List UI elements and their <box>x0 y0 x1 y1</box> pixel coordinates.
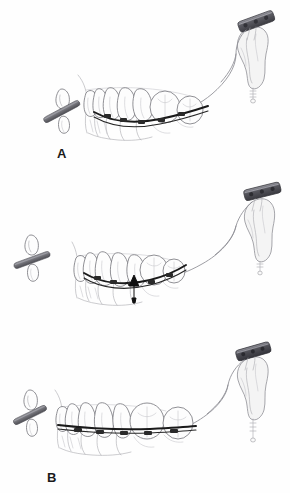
panel-c-illustration <box>0 335 290 493</box>
panel-b: B <box>0 170 290 335</box>
panel-label-a: A <box>57 146 67 161</box>
panel-a: A <box>0 0 290 170</box>
figure-container: A <box>0 0 290 493</box>
zygomatic-bone <box>237 357 268 442</box>
panel-c: C <box>0 335 290 493</box>
upper-teeth-row <box>84 88 203 124</box>
panel-a-illustration <box>0 0 290 170</box>
zygomatic-bone <box>237 27 268 103</box>
zygomatic-bone <box>244 199 274 275</box>
panel-b-illustration <box>0 170 290 335</box>
